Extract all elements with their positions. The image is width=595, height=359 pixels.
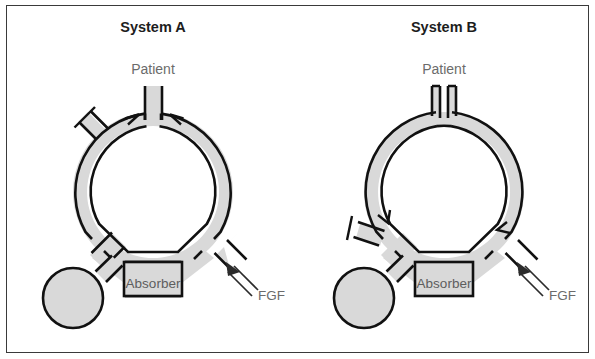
system-b-absorber-label: Absorber xyxy=(417,276,472,291)
system-a-absorber-label: Absorber xyxy=(126,276,181,291)
system-a-patient-label: Patient xyxy=(131,61,175,77)
figure-container: System A Patient Absorber FGF xyxy=(0,0,595,359)
system-b-title: System B xyxy=(411,19,477,35)
circuit-diagram: System A Patient Absorber FGF xyxy=(0,0,595,359)
fgf-arrow-b xyxy=(517,262,549,296)
system-b-fgf-label: FGF xyxy=(549,288,576,303)
system-a-fgf-label: FGF xyxy=(258,288,285,303)
system-b-patient-label: Patient xyxy=(422,61,466,77)
system-a-group: System A Patient Absorber FGF xyxy=(43,19,285,328)
system-b-group: System B Patient Absorber FGF xyxy=(334,19,576,328)
system-a-title: System A xyxy=(120,19,186,35)
fgf-arrow-a xyxy=(226,262,258,296)
